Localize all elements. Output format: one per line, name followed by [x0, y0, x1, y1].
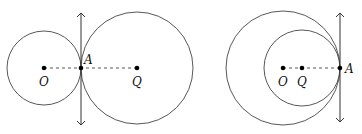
- point-q: [300, 66, 305, 71]
- label-o: O: [278, 75, 288, 89]
- label-q: Q: [132, 75, 142, 89]
- point-a: [338, 66, 343, 71]
- point-a: [79, 66, 84, 71]
- label-o: O: [39, 75, 49, 89]
- figure-externally-tangent: O A Q: [7, 12, 193, 125]
- figure-internally-tangent: O Q A: [226, 11, 354, 125]
- label-a: A: [83, 53, 93, 67]
- label-q: Q: [297, 75, 307, 89]
- point-o: [42, 66, 47, 71]
- diagram-canvas: O A Q O Q A: [0, 0, 362, 134]
- label-a: A: [344, 62, 354, 76]
- point-q: [135, 66, 140, 71]
- point-o: [281, 66, 286, 71]
